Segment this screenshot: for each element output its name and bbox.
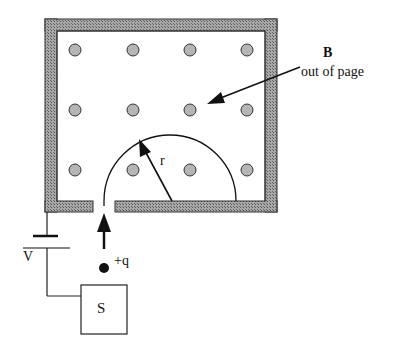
particle-charge-label: +q — [114, 253, 129, 269]
field-dot-icon — [69, 164, 81, 176]
circuit-wires — [47, 212, 81, 296]
b-field-label: B — [323, 45, 332, 61]
field-dot-icon — [127, 104, 139, 116]
field-dot-icon — [241, 104, 253, 116]
field-dot-icon — [69, 104, 81, 116]
field-dot-icon — [127, 164, 139, 176]
field-dot-icon — [184, 164, 196, 176]
b-field-pointer-arrow-icon — [207, 67, 300, 104]
radius-arrow-icon — [139, 139, 172, 201]
field-dot-icon — [69, 44, 81, 56]
radius-label: r — [160, 153, 165, 169]
semicircle-path — [104, 135, 236, 206]
voltage-label: V — [23, 249, 33, 265]
field-dot-icon — [241, 164, 253, 176]
magnetic-field-diagram — [0, 0, 401, 350]
battery-icon — [23, 236, 70, 248]
field-dot-icon — [184, 104, 196, 116]
field-dot-icon — [184, 44, 196, 56]
particle-dot-icon — [99, 263, 109, 273]
field-dot-icon — [241, 44, 253, 56]
b-field-direction-label: out of page — [301, 64, 364, 80]
field-dot-icon — [127, 44, 139, 56]
source-label: S — [97, 300, 105, 317]
particle-direction-arrow-icon — [97, 213, 111, 249]
